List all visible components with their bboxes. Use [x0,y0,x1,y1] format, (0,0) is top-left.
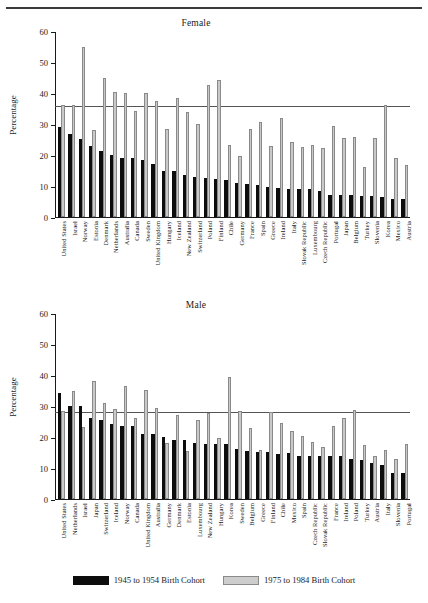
x-category-label: New Zealand [181,220,191,292]
bar-group [202,314,212,499]
chart-panel-male: Male Percentage 0102030405060 United Sta… [0,300,428,572]
y-tick-male-30 [51,407,55,408]
x-category-label: Norway [77,220,87,292]
bar-group [264,32,274,217]
bar [124,386,127,499]
y-tick-label-female-30: 30 [40,121,49,130]
x-category-label: Australia [119,220,129,292]
x-category-label: Spain [254,220,264,292]
x-category-label: Ireland [275,220,285,292]
x-category-label: Spain [296,502,306,574]
x-category-label: Slovenia [390,502,400,574]
bar [228,377,231,499]
legend-item-old-cohort: 1945 to 1954 Birth Cohort [73,575,205,585]
x-category-label: Japan [338,220,348,292]
x-category-label: Israel [66,220,76,292]
x-category-label-text: Austria [406,221,412,241]
bar [373,456,376,499]
x-category-label: Germany [233,220,243,292]
bar-group [212,32,222,217]
bar-group [243,32,253,217]
bar-group [118,32,128,217]
x-category-label: Slovenia [369,220,379,292]
y-tick-label-male-40: 40 [40,372,49,381]
bar-group [347,314,357,499]
bar [61,411,64,499]
bar-group [129,32,139,217]
bar [238,156,241,217]
bar-series-container-female [56,32,410,217]
bar [353,137,356,217]
x-category-label: Czech Republic [307,502,317,574]
bar [373,138,376,217]
bar [61,105,64,217]
bar-group [170,314,180,499]
chart-title-male: Male [0,300,410,310]
y-tick-label-male-60: 60 [40,310,49,319]
bar-group [399,32,409,217]
y-tick-label-male-0: 0 [44,496,48,505]
bar-group [56,32,66,217]
bar [196,124,199,217]
plot-area-female: 0102030405060 [55,32,410,218]
bar-group [212,314,222,499]
bar [217,80,220,217]
bar-group [202,32,212,217]
bar [113,409,116,499]
bar-group [66,32,76,217]
chart-title-female: Female [0,18,410,28]
bar [134,111,137,217]
x-category-label: Czech Republic [317,220,327,292]
x-category-label: Canada [129,220,139,292]
y-tick-male-0 [51,500,55,501]
x-category-label: Netherlands [108,220,118,292]
x-category-label: France [327,502,337,574]
bar-group [87,32,97,217]
bar-group [129,314,139,499]
bar [290,431,293,499]
bar-group [275,32,285,217]
x-category-label: United States [56,502,66,574]
bar [332,426,335,499]
x-category-label: Mexico [390,220,400,292]
bar-group [316,314,326,499]
bar [249,129,252,217]
bar-group [275,314,285,499]
bar [155,101,158,217]
bar [207,413,210,499]
bar-group [223,314,233,499]
figure-page: Female Percentage 0102030405060 United S… [0,0,428,603]
bar-group [87,314,97,499]
x-category-label: Finland [265,502,275,574]
bar-group [368,314,378,499]
bar [217,438,220,499]
bar [405,444,408,499]
bar [82,427,85,499]
bar [301,436,304,499]
x-category-label: Netherlands [66,502,76,574]
x-category-label: Israel [77,502,87,574]
x-category-label: Greece [265,220,275,292]
bar [144,390,147,499]
x-category-label: Iceland [171,220,181,292]
x-axis-line-male [55,499,410,500]
x-category-label: Austria [369,502,379,574]
x-category-label: Canada [129,502,139,574]
y-tick-female-20 [51,156,55,157]
bar-group [160,32,170,217]
bar [311,442,314,499]
top-horizontal-rule [6,7,422,9]
legend-label-young-cohort: 1975 to 1984 Birth Cohort [264,575,355,585]
bar-group [98,32,108,217]
x-category-label: Hungary [160,220,170,292]
bar [280,423,283,499]
bar-group [254,314,264,499]
y-tick-label-male-30: 30 [40,403,49,412]
bar-group [379,32,389,217]
bar [280,118,283,217]
x-category-label: Korea [380,220,390,292]
bar [342,418,345,499]
bar [103,403,106,499]
x-category-label: Luxembourg [307,220,317,292]
bar-group [358,314,368,499]
